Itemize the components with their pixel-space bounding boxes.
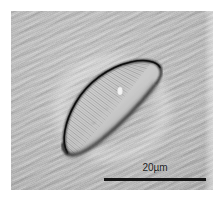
scale-bar-label: 20µm <box>104 162 206 173</box>
scale-bar-line <box>104 178 206 181</box>
micrograph-plate: 20µm <box>11 11 213 190</box>
scale-bar: 20µm <box>11 11 213 190</box>
micrograph-figure: 20µm <box>0 0 220 201</box>
